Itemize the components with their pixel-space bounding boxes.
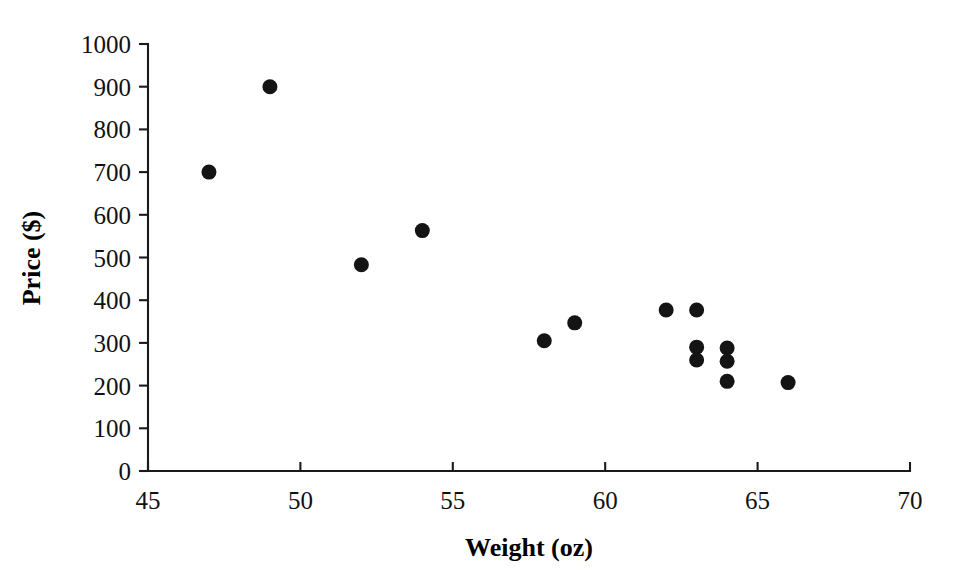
x-tick-label: 65 [745,487,770,514]
data-point [415,223,430,238]
data-point [659,303,674,318]
y-tick-label: 600 [94,202,132,229]
y-tick-label: 400 [94,287,132,314]
y-tick-label: 500 [94,245,132,272]
plot-axes [148,44,910,471]
x-tick-label: 45 [136,487,161,514]
chart-canvas: 01002003004005006007008009001000 4550556… [0,0,956,587]
data-point [689,340,704,355]
x-axis-tick-labels: 455055606570 [136,487,923,514]
y-tick-label: 200 [94,373,132,400]
data-point [720,354,735,369]
data-point [537,333,552,348]
data-point [262,79,277,94]
x-tick-label: 70 [898,487,923,514]
data-point [720,341,735,356]
data-point-group [201,79,795,390]
x-tick-label: 60 [593,487,618,514]
data-point [201,165,216,180]
x-tick-label: 50 [288,487,313,514]
x-tick-label: 55 [440,487,465,514]
y-tick-label: 800 [94,116,132,143]
data-point [689,352,704,367]
x-axis-ticks [148,462,910,471]
y-tick-label: 700 [94,159,132,186]
y-axis-title: Price ($) [17,211,46,306]
data-point [781,375,796,390]
y-axis-tick-labels: 01002003004005006007008009001000 [81,31,131,485]
x-axis-title: Weight (oz) [465,533,593,562]
data-point [567,315,582,330]
y-tick-label: 1000 [81,31,131,58]
data-point [354,257,369,272]
y-tick-label: 100 [94,415,132,442]
scatter-chart: 01002003004005006007008009001000 4550556… [0,0,956,587]
y-tick-label: 0 [119,458,132,485]
y-tick-label: 900 [94,74,132,101]
data-point [689,303,704,318]
data-point [720,374,735,389]
y-axis-ticks [139,44,148,471]
y-tick-label: 300 [94,330,132,357]
